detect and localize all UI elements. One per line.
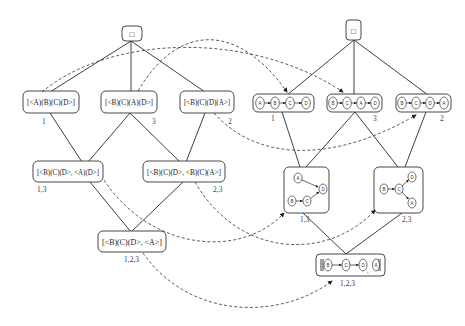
- svg-text:1: 1: [271, 114, 275, 123]
- map-arrow-2: [214, 113, 416, 150]
- svg-text:1,3: 1,3: [300, 215, 310, 224]
- right-root-node: □: [346, 20, 361, 40]
- left-level3-node-123: [<B)(C)(D>, <A>] 1,2,3: [98, 231, 166, 264]
- left-level2-node-23: [<B)(C)(D>, <B)(C)(A>] 2,3: [143, 161, 225, 194]
- svg-text:1,2,3: 1,2,3: [340, 279, 355, 288]
- svg-text:1: 1: [42, 117, 46, 126]
- right-level2-node-13: A B C D 1,3: [284, 167, 329, 224]
- svg-text:[<B)(C)(D>, <A)(D>]: [<B)(C)(D>, <A)(D>]: [37, 168, 99, 177]
- svg-text:2: 2: [440, 114, 444, 123]
- left-root-node: □: [122, 26, 142, 41]
- svg-text:B: B: [331, 101, 334, 106]
- svg-text:B: B: [273, 101, 276, 106]
- map-arrow-123: [143, 253, 332, 307]
- svg-text:2: 2: [228, 117, 232, 126]
- svg-text:B: B: [290, 199, 293, 204]
- svg-text:3: 3: [152, 117, 156, 126]
- svg-text:B: B: [382, 187, 385, 192]
- left-lattice-edges: [50, 41, 205, 232]
- map-arrow-1: [42, 47, 343, 92]
- svg-text:2,3: 2,3: [213, 185, 223, 194]
- svg-text:A: A: [374, 263, 377, 268]
- svg-text:1,3: 1,3: [37, 185, 47, 194]
- svg-text:[<B)(C)(D)(A>]: [<B)(C)(D)(A>]: [184, 98, 230, 107]
- svg-text:A: A: [359, 101, 362, 106]
- left-level1-node-3: [<B)(C)(A)(D>] 3: [101, 91, 157, 126]
- svg-text:A: A: [442, 101, 445, 106]
- svg-text:B: B: [400, 101, 403, 106]
- svg-text:1,2,3: 1,2,3: [124, 255, 139, 264]
- lattice-diagram: □ [<A)(B)(C)(D>] 1 [<B)(C)(A)(D>] 3 [<B)…: [0, 0, 465, 326]
- right-level3-node-123: B C D A , 1,2,3: [316, 254, 385, 288]
- map-arrow-3: [138, 40, 287, 92]
- left-level1-node-1: [<A)(B)(C)(D>] 1: [23, 91, 79, 126]
- right-level1-node-3: B C A D 3: [327, 94, 382, 123]
- svg-text:B: B: [326, 263, 329, 268]
- left-level1-node-2: [<B)(C)(D)(A>] 2: [180, 91, 234, 126]
- svg-text:2,3: 2,3: [402, 215, 412, 224]
- svg-text:□: □: [351, 27, 356, 36]
- svg-text:A: A: [258, 101, 261, 106]
- svg-text:[<A)(B)(C)(D>]: [<A)(B)(C)(D>]: [27, 98, 75, 107]
- svg-text:3: 3: [373, 114, 377, 123]
- svg-text:A: A: [296, 176, 299, 181]
- svg-text:[<B)(C)(D>, <A>]: [<B)(C)(D>, <A>]: [102, 238, 162, 247]
- left-level2-node-13: [<B)(C)(D>, <A)(D>] 1,3: [33, 161, 103, 194]
- svg-text:□: □: [130, 30, 135, 39]
- svg-text:[<B)(C)(D>, <B)(C)(A>]: [<B)(C)(D>, <B)(C)(A>]: [147, 168, 221, 177]
- svg-text:A: A: [410, 201, 413, 206]
- svg-text:[<B)(C)(A)(D>]: [<B)(C)(A)(D>]: [105, 98, 153, 107]
- right-level1-node-1: A B C D 1: [253, 94, 314, 123]
